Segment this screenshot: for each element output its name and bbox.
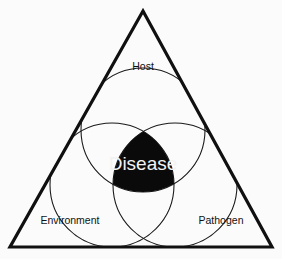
disease-label: Disease xyxy=(109,153,178,174)
epidemiologic-triangle-diagram: Host Environment Pathogen Disease xyxy=(0,0,282,259)
diagram-canvas: Host Environment Pathogen Disease xyxy=(0,0,282,259)
environment-label: Environment xyxy=(41,214,100,226)
host-label: Host xyxy=(132,60,154,72)
pathogen-label: Pathogen xyxy=(199,214,244,226)
